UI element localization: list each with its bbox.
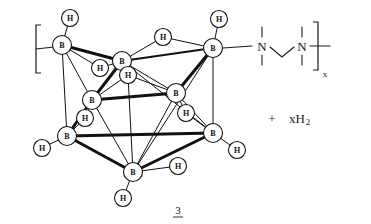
hydrogen-atom: H [34, 140, 51, 157]
boron-vertex: B [204, 124, 223, 143]
cage-to-nitrogen-bond [223, 46, 252, 48]
bridging-hydrogen-atom: H [120, 67, 137, 84]
boron-vertex: B [204, 39, 223, 58]
hydrogen-atom: H [229, 142, 246, 159]
hydrogen-atom: H [170, 158, 187, 175]
hydrogen-atom: H [115, 190, 132, 207]
nitrogen-label: N [257, 39, 267, 54]
bridging-hydrogen-atom: H [155, 29, 172, 46]
plus-sign: + [268, 111, 275, 126]
hydrogen-byproduct-subscript: 2 [306, 117, 311, 127]
nitrogen-label: N [297, 39, 307, 54]
hydrogen-atom: H [62, 10, 79, 27]
bridging-hydrogen-atom: H [77, 110, 94, 127]
boron-vertex: B [58, 127, 77, 146]
boron-vertex: B [83, 91, 102, 110]
compound-number: 3 [175, 204, 181, 216]
boron-vertex: B [53, 36, 72, 55]
reaction-scheme: B B B B B B B B H H H H [0, 0, 371, 224]
bridging-hydrogen-atom: H [92, 60, 109, 77]
nitrogen-left: N [257, 27, 267, 65]
hydrogen-atom: H [211, 11, 228, 28]
nitrogen-right: N [297, 27, 307, 65]
bracket-bond-left [36, 47, 54, 49]
ethylene-bridge [270, 47, 294, 57]
boron-vertex: B [167, 84, 186, 103]
boron-vertex: B [124, 163, 143, 182]
bridging-hydrogen-atom: H [178, 105, 195, 122]
hydrogen-byproduct-formula: xH [289, 111, 305, 126]
repeat-subscript: x [323, 69, 328, 79]
